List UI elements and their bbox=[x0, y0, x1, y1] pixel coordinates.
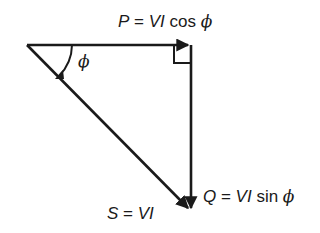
vi-term: VI bbox=[236, 187, 252, 206]
right-angle-marker bbox=[174, 45, 191, 63]
apparent-power-vector bbox=[27, 45, 188, 208]
vi-term: VI bbox=[138, 204, 154, 223]
equals-sign: = bbox=[118, 204, 137, 223]
real-power-symbol: P bbox=[118, 12, 129, 31]
real-power-label: P = VI cos ϕ bbox=[118, 13, 212, 30]
angle-label: ϕ bbox=[78, 53, 90, 70]
phi-symbol: ϕ bbox=[201, 11, 213, 31]
cos-function: cos bbox=[165, 12, 201, 31]
phi-symbol: ϕ bbox=[78, 51, 90, 71]
reactive-power-symbol: Q bbox=[203, 187, 216, 206]
phi-symbol: ϕ bbox=[283, 186, 295, 206]
equals-sign: = bbox=[129, 12, 148, 31]
vi-term: VI bbox=[149, 12, 165, 31]
reactive-power-label: Q = VI sin ϕ bbox=[203, 188, 294, 205]
apparent-power-symbol: S bbox=[107, 204, 118, 223]
equals-sign: = bbox=[216, 187, 235, 206]
angle-arc bbox=[59, 45, 72, 76]
sin-function: sin bbox=[252, 187, 283, 206]
apparent-power-label: S = VI bbox=[107, 205, 154, 222]
